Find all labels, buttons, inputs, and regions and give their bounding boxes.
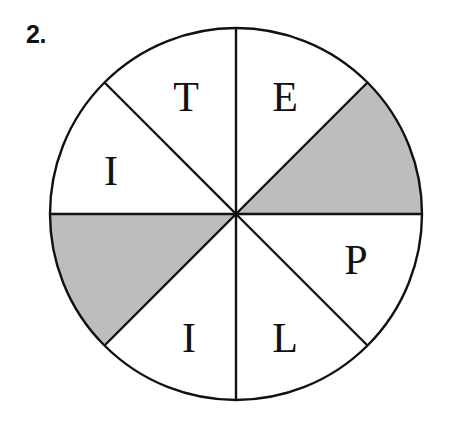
sector-label-l: L xyxy=(272,315,298,361)
sector-shaded-lower-left xyxy=(50,214,236,345)
sector-shaded-upper-right xyxy=(236,83,422,214)
sector-label-t: T xyxy=(173,74,199,120)
sector-label-p: P xyxy=(344,237,367,283)
sector-label-i-lower-left: I xyxy=(182,315,196,361)
sector-label-i-upper-left: I xyxy=(104,148,118,194)
spinner-figure: 2. T E I P I L xyxy=(0,0,462,428)
spinner-diagram: T E I P I L xyxy=(0,0,462,428)
sector-label-e: E xyxy=(272,74,298,120)
